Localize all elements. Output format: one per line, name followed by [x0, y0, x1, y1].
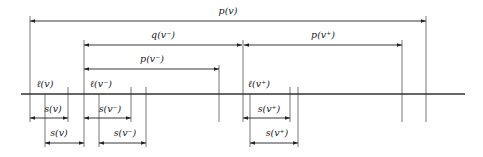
- arrow-p-v-plus: p(v⁺): [244, 29, 402, 45]
- label-p-v: p(v): [219, 5, 238, 16]
- label-p-v-minus: p(v⁻): [140, 53, 164, 64]
- label-l-v-minus: ℓ(v⁻): [90, 78, 112, 89]
- label-s-v-row2: s(v): [50, 127, 68, 138]
- dimension-arrows: p(v)q(v⁻)p(v⁺)p(v⁻)s(v)s(v⁻)s(v⁺)s(v)s(v…: [30, 5, 426, 143]
- arrow-p-v: p(v): [30, 5, 426, 21]
- arrow-s-v-plus-row2: s(v⁺): [250, 127, 298, 143]
- arrow-s-v-minus-row2: s(v⁻): [99, 127, 146, 143]
- label-s-v-plus-row2: s(v⁺): [266, 127, 289, 138]
- arrow-p-v-minus: p(v⁻): [84, 53, 219, 69]
- label-q-v-minus: q(v⁻): [151, 29, 175, 40]
- arrow-s-v-row2: s(v): [45, 127, 84, 143]
- label-l-v-plus: ℓ(v⁺): [248, 78, 270, 89]
- point-labels: ℓ(v)ℓ(v⁻)ℓ(v⁺): [37, 78, 271, 89]
- arrow-s-v-minus-row1: s(v⁻): [84, 103, 131, 118]
- interval-diagram: p(v)q(v⁻)p(v⁺)p(v⁻)s(v)s(v⁻)s(v⁺)s(v)s(v…: [0, 0, 483, 157]
- label-l-v: ℓ(v): [37, 78, 54, 89]
- label-p-v-plus: p(v⁺): [311, 29, 335, 40]
- label-s-v-minus-row1: s(v⁻): [99, 103, 122, 114]
- label-s-v-row1: s(v): [44, 103, 62, 114]
- arrow-s-v-row1: s(v): [30, 103, 68, 118]
- label-s-v-minus-row2: s(v⁻): [114, 127, 137, 138]
- label-s-v-plus-row1: s(v⁺): [258, 103, 281, 114]
- arrow-q-v-minus: q(v⁻): [84, 29, 242, 45]
